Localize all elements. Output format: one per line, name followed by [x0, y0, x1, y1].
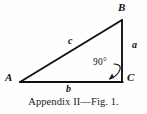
side-label-a: a: [132, 40, 137, 50]
vertex-label-b: B: [118, 2, 125, 13]
figure-caption: Appendix II—Fig. 1.: [0, 96, 147, 107]
side-label-b: b: [66, 84, 71, 94]
right-angle-label: 90°: [93, 58, 107, 68]
side-label-c: c: [68, 36, 72, 46]
vertex-label-a: A: [5, 72, 12, 83]
triangle-side-c: [20, 20, 122, 82]
vertex-label-c: C: [127, 72, 134, 83]
figure-container: A B C a b c 90° Appendix II—Fig. 1.: [0, 0, 147, 114]
